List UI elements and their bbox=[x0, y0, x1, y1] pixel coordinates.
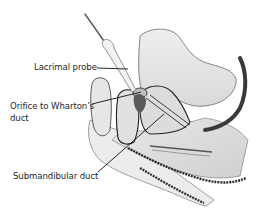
label-orifice-wharton-line2: duct bbox=[10, 113, 29, 124]
probe-shaft bbox=[85, 14, 106, 44]
label-orifice-wharton: Orifice to Wharton’s bbox=[10, 101, 94, 112]
anatomy-diagram: Lacrimal probe Orifice to Wharton’s duct… bbox=[0, 0, 264, 213]
label-submandibular-duct: Submandibular duct bbox=[13, 171, 98, 182]
label-lacrimal-probe: Lacrimal probe bbox=[34, 62, 97, 73]
